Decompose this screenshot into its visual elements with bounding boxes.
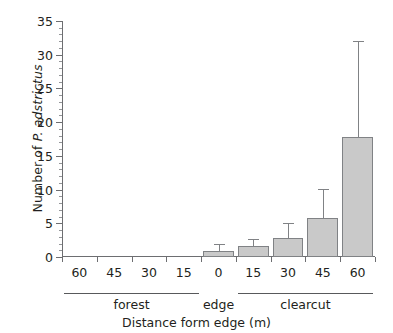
- x-axis-tick-label: 15: [245, 265, 261, 280]
- y-axis-tick-label: 25: [37, 81, 53, 96]
- x-axis-tick-label: 0: [215, 265, 223, 280]
- x-axis-tick-label: 60: [350, 265, 366, 280]
- y-axis-major-tick: [56, 55, 62, 56]
- x-axis-tick: [132, 257, 133, 262]
- x-axis-tick: [305, 257, 306, 262]
- y-axis-minor-tick: [59, 41, 62, 42]
- y-axis-minor-tick: [59, 244, 62, 245]
- group-label: clearcut: [280, 297, 330, 312]
- y-axis-minor-tick: [59, 237, 62, 238]
- error-bar-cap: [248, 239, 259, 240]
- y-axis-minor-tick: [59, 196, 62, 197]
- y-axis-minor-tick: [59, 34, 62, 35]
- error-bar-cap: [318, 189, 329, 190]
- error-bar-cap: [283, 223, 294, 224]
- y-axis-tick-label: 15: [37, 148, 53, 163]
- y-axis-minor-tick: [59, 61, 62, 62]
- y-axis-minor-tick: [59, 230, 62, 231]
- x-axis-tick: [166, 257, 167, 262]
- y-axis-title-species: P. adstrictus: [30, 64, 45, 141]
- x-axis-tick-label: 30: [141, 265, 157, 280]
- x-axis-tick: [271, 257, 272, 262]
- y-axis-minor-tick: [59, 82, 62, 83]
- y-axis-minor-tick: [59, 149, 62, 150]
- x-axis-tick-label: 15: [176, 265, 192, 280]
- bar: [307, 218, 338, 257]
- y-axis-minor-tick: [59, 28, 62, 29]
- y-axis-tick-label: 30: [37, 47, 53, 62]
- y-axis-minor-tick: [59, 75, 62, 76]
- x-axis-tick-label: 45: [315, 265, 331, 280]
- y-axis-minor-tick: [59, 210, 62, 211]
- y-axis-minor-tick: [59, 136, 62, 137]
- y-axis-minor-tick: [59, 163, 62, 164]
- x-axis-tick: [62, 257, 63, 262]
- y-axis-major-tick: [56, 21, 62, 22]
- y-axis-tick-label: 35: [37, 14, 53, 29]
- error-bar: [219, 244, 220, 251]
- bar: [342, 137, 373, 257]
- bar: [203, 251, 234, 257]
- y-axis-minor-tick: [59, 129, 62, 130]
- error-bar-cap: [353, 41, 364, 42]
- error-bar: [358, 41, 359, 137]
- x-axis-tick-label: 30: [280, 265, 296, 280]
- y-axis-minor-tick: [59, 102, 62, 103]
- x-axis-tick: [97, 257, 98, 262]
- y-axis-minor-tick: [59, 142, 62, 143]
- y-axis-minor-tick: [59, 176, 62, 177]
- y-axis-minor-tick: [59, 95, 62, 96]
- x-axis-tick-label: 45: [106, 265, 122, 280]
- error-bar: [323, 189, 324, 218]
- x-axis-tick: [236, 257, 237, 262]
- error-bar: [288, 223, 289, 238]
- group-label: forest: [114, 297, 150, 312]
- y-axis-line: [62, 21, 63, 257]
- y-axis-tick-label: 5: [45, 216, 53, 231]
- y-axis-major-tick: [56, 223, 62, 224]
- y-axis-tick-label: 0: [45, 250, 53, 265]
- y-axis-minor-tick: [59, 250, 62, 251]
- y-axis-minor-tick: [59, 109, 62, 110]
- y-axis-minor-tick: [59, 217, 62, 218]
- group-label: edge: [203, 297, 234, 312]
- y-axis-minor-tick: [59, 203, 62, 204]
- error-bar-cap: [214, 244, 225, 245]
- x-axis-title: Distance form edge (m): [0, 315, 393, 330]
- bar: [238, 246, 269, 257]
- y-axis-major-tick: [56, 122, 62, 123]
- y-axis-minor-tick: [59, 169, 62, 170]
- bar: [273, 238, 304, 257]
- y-axis-minor-tick: [59, 183, 62, 184]
- y-axis-tick-label: 20: [37, 115, 53, 130]
- y-axis-minor-tick: [59, 68, 62, 69]
- x-axis-tick: [340, 257, 341, 262]
- y-axis-minor-tick: [59, 115, 62, 116]
- y-axis-major-tick: [56, 88, 62, 89]
- y-axis-major-tick: [56, 156, 62, 157]
- group-bracket-line: [64, 293, 199, 294]
- x-axis-tick: [201, 257, 202, 262]
- plot-area: 05101520253035 60453015015304560: [62, 21, 375, 257]
- x-axis-tick-label: 60: [71, 265, 87, 280]
- y-axis-minor-tick: [59, 48, 62, 49]
- group-bracket-line: [238, 293, 373, 294]
- x-axis-tick: [375, 257, 376, 262]
- y-axis-major-tick: [56, 190, 62, 191]
- y-axis-tick-label: 10: [37, 182, 53, 197]
- bar-chart-figure: Number of P. adstrictus 05101520253035 6…: [0, 0, 393, 333]
